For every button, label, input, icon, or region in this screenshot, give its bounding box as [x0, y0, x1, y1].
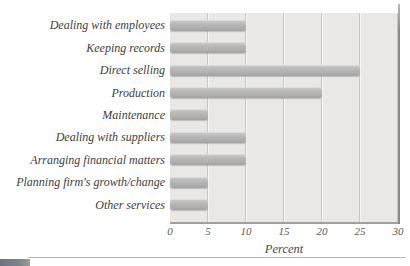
chart-screenshot: Dealing with employeesKeeping recordsDir…: [0, 0, 410, 266]
bar-track: [170, 59, 398, 81]
x-axis-ticks: 051015202530: [170, 226, 398, 239]
bar-track: [170, 81, 398, 103]
chart-rows: Dealing with employeesKeeping recordsDir…: [0, 14, 398, 216]
corner-artifact: [0, 259, 30, 266]
category-label: Maintenance: [0, 109, 170, 121]
bar: [170, 154, 246, 165]
bar: [170, 65, 360, 76]
chart-row: Direct selling: [0, 59, 398, 81]
bar-track: [170, 104, 398, 126]
chart-row: Dealing with employees: [0, 14, 398, 36]
x-tick-label: 25: [355, 226, 366, 237]
category-label: Planning firm's growth/change: [0, 176, 170, 188]
category-label: Keeping records: [0, 42, 170, 54]
category-label: Direct selling: [0, 64, 170, 76]
x-tick-label: 5: [205, 226, 211, 237]
bar: [170, 42, 246, 53]
plot-right-edge: [398, 4, 400, 224]
bar: [170, 132, 246, 143]
chart-row: Dealing with suppliers: [0, 126, 398, 148]
bar: [170, 199, 208, 210]
bar-track: [170, 36, 398, 58]
category-label: Production: [0, 87, 170, 99]
bar: [170, 177, 208, 188]
x-tick-label: 10: [240, 226, 251, 237]
chart-row: Keeping records: [0, 36, 398, 58]
bar-track: [170, 126, 398, 148]
x-tick-label: 20: [316, 226, 327, 237]
x-axis-label: Percent: [170, 242, 398, 257]
chart-row: Production: [0, 81, 398, 103]
category-label: Dealing with suppliers: [0, 131, 170, 143]
category-label: Other services: [0, 199, 170, 211]
category-label: Dealing with employees: [0, 19, 170, 31]
bar: [170, 87, 322, 98]
bar-track: [170, 149, 398, 171]
chart-row: Maintenance: [0, 104, 398, 126]
chart-row: Planning firm's growth/change: [0, 171, 398, 193]
category-label: Arranging financial matters: [0, 154, 170, 166]
page-edge-line: [28, 257, 406, 258]
x-tick-label: 15: [279, 226, 290, 237]
bar-track: [170, 171, 398, 193]
chart-row: Arranging financial matters: [0, 149, 398, 171]
bar: [170, 20, 246, 31]
bar-track: [170, 194, 398, 216]
bar-track: [170, 14, 398, 36]
chart-row: Other services: [0, 194, 398, 216]
bar: [170, 109, 208, 120]
x-tick-label: 0: [167, 226, 173, 237]
x-tick-label: 30: [393, 226, 404, 237]
